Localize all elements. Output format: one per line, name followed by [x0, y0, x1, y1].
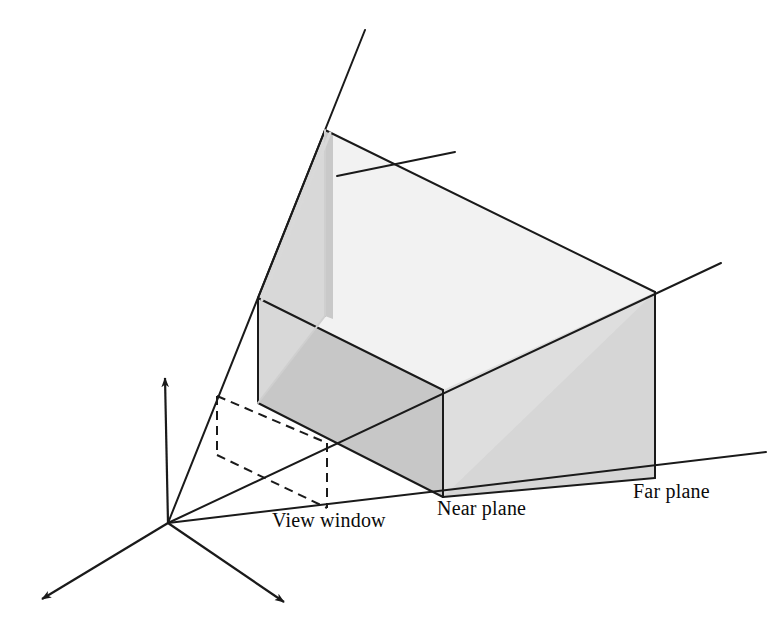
view-frustum-figure: View window Near plane Far plane: [0, 0, 770, 634]
z-axis-arrow: [168, 523, 284, 602]
frustum-diagram-svg: [0, 0, 770, 634]
view-window-label: View window: [272, 509, 386, 532]
y-axis-arrow: [165, 378, 168, 523]
far-plane-label: Far plane: [633, 480, 710, 503]
near-plane-label: Near plane: [437, 497, 526, 520]
frustum-faces: [258, 130, 655, 497]
x-axis-arrow: [42, 523, 168, 599]
view-window-bottom-edge: [217, 455, 327, 508]
coordinate-axes: [42, 378, 284, 602]
far-left-edge-column: [325, 130, 333, 319]
